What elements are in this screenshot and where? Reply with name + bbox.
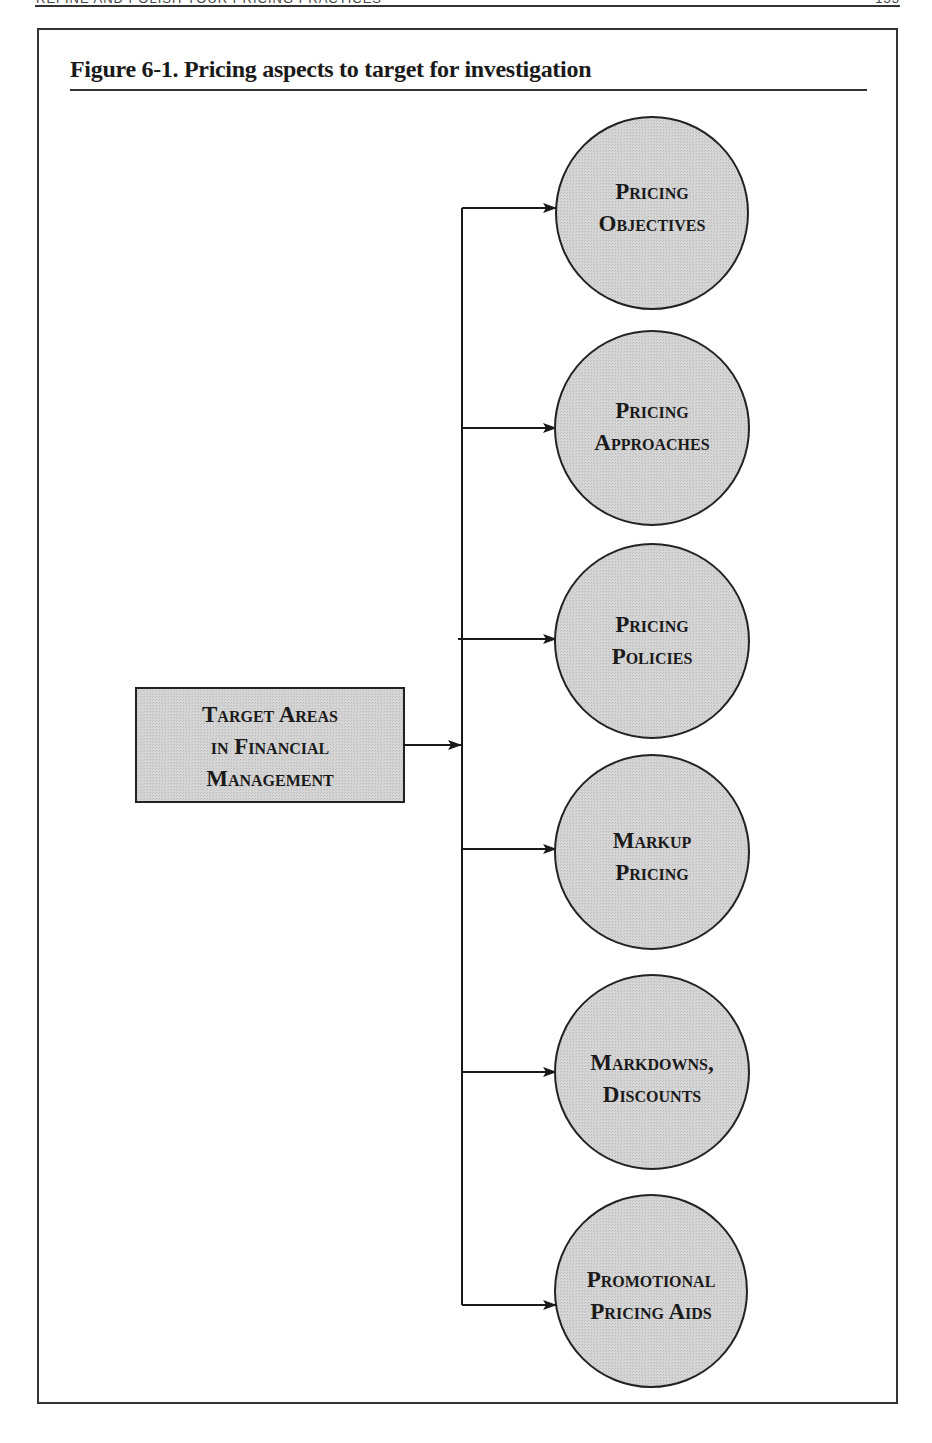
target-label-3-line-2: Policies [556,641,748,673]
source-label-line-3: Management [136,763,404,795]
target-label-6: Promotional Pricing Aids [555,1264,747,1328]
source-label-line-1: Target Areas [136,699,404,731]
target-label-4: Markup Pricing [556,825,748,889]
target-label-5-line-1: Markdowns, [556,1047,748,1079]
target-label-2-line-1: Pricing [556,395,748,427]
target-label-5: Markdowns, Discounts [556,1047,748,1111]
target-label-1: Pricing Objectives [556,176,748,240]
target-label-2: Pricing Approaches [556,395,748,459]
target-label-3: Pricing Policies [556,609,748,673]
target-label-5-line-2: Discounts [556,1079,748,1111]
target-label-4-line-2: Pricing [556,857,748,889]
source-label: Target Areas in Financial Management [136,699,404,795]
target-label-1-line-1: Pricing [556,176,748,208]
target-label-1-line-2: Objectives [556,208,748,240]
target-label-6-line-1: Promotional [555,1264,747,1296]
target-label-2-line-2: Approaches [556,427,748,459]
target-label-4-line-1: Markup [556,825,748,857]
source-label-line-2: in Financial [136,731,404,763]
target-label-3-line-1: Pricing [556,609,748,641]
target-label-6-line-2: Pricing Aids [555,1296,747,1328]
